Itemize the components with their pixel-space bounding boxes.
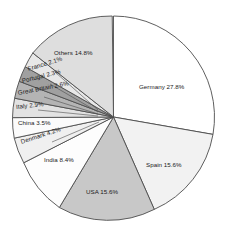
pie-slice-germany [114,16,215,134]
pie-label-spain: Spain 15.6% [146,162,182,168]
pie-chart: Germany 27.8% Spain 15.6% USA 15.6% Indi… [0,0,227,235]
pie-label-usa: USA 15.6% [86,189,118,195]
pie-label-china: China 3.5% [18,120,51,126]
pie-label-others: Others 14.8% [54,50,92,56]
pie-label-india: India 8.4% [44,157,74,163]
pie-label-germany: Germany 27.8% [139,84,184,90]
pie-chart-canvas [0,0,227,235]
